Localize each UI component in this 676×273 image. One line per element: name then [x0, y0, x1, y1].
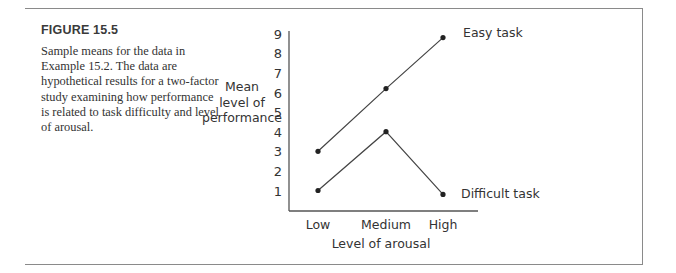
data-point: [440, 192, 445, 197]
y-tick-label: 1: [274, 184, 282, 199]
y-tick-label: 5: [274, 105, 282, 120]
series-label: Difficult task: [461, 186, 540, 201]
chart-axes: [289, 31, 478, 211]
data-point: [440, 35, 445, 40]
y-tick-label: 7: [274, 66, 282, 81]
y-tick-label: 6: [274, 86, 282, 101]
data-point: [315, 188, 320, 193]
series-line: [318, 38, 443, 152]
y-tick-label: 4: [274, 125, 282, 140]
series-difficult-task: Difficult task: [315, 129, 540, 201]
data-point: [383, 86, 388, 91]
series-easy-task: Easy task: [315, 25, 523, 154]
x-axis-label: Level of arousal: [332, 236, 431, 251]
series-line: [318, 132, 443, 195]
y-tick-label: 9: [274, 27, 282, 42]
y-tick-label: 2: [274, 164, 282, 179]
x-category-label: High: [429, 217, 458, 232]
y-tick-label: 8: [274, 46, 282, 61]
data-series: Easy taskDifficult task: [315, 25, 540, 202]
series-label: Easy task: [463, 25, 524, 40]
x-category-label: Low: [306, 217, 331, 232]
x-category-label: Medium: [361, 217, 411, 232]
data-point: [383, 129, 388, 134]
x-axis-categories: LowMediumHigh: [306, 217, 458, 232]
y-tick-label: 3: [274, 144, 282, 159]
line-chart: 123456789 LowMediumHigh Easy taskDifficu…: [0, 0, 676, 273]
data-point: [315, 149, 320, 154]
y-axis-ticks: 123456789: [274, 27, 282, 199]
